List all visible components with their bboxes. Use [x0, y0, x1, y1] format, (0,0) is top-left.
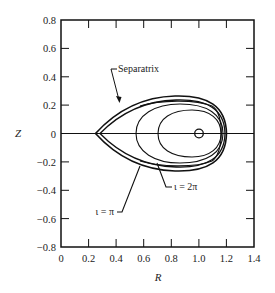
plot-canvas: 0.8 0.6 0.4 0.2 0 −0.2 −0.4 −0.6 −0.8 0 … — [0, 0, 275, 293]
separatrix-arrowhead — [116, 96, 122, 103]
y-tick-label: 0.6 — [43, 43, 56, 54]
y-tick-label: −0.8 — [37, 242, 56, 253]
x-ticks-top — [89, 20, 227, 28]
y-axis-title: Z — [15, 127, 22, 139]
x-tick-label: 0.6 — [137, 253, 150, 264]
x-tick-label: 0.4 — [110, 253, 124, 264]
y-tick-label: −0.2 — [37, 157, 56, 168]
x-tick-label: 1.4 — [247, 253, 261, 264]
y-tick-label: 0.8 — [43, 15, 56, 26]
x-tick-label: 1.2 — [220, 253, 233, 264]
x-tick-label: 0 — [58, 253, 63, 264]
separatrix-label: Separatrix — [118, 63, 159, 74]
iota-pi-leader — [117, 166, 140, 212]
y-tick-label: −0.6 — [37, 214, 56, 225]
x-ticks-bottom — [89, 239, 227, 247]
y-tick-labels: 0.8 0.6 0.4 0.2 0 −0.2 −0.4 −0.6 −0.8 — [37, 15, 57, 253]
x-tick-label: 0.2 — [82, 253, 95, 264]
x-axis-title: R — [154, 271, 162, 283]
iota-2pi-label: ι = 2π — [174, 181, 197, 192]
iota-pi-label: ι = π — [96, 206, 114, 217]
x-tick-label: 1.0 — [192, 253, 205, 264]
y-tick-label: 0.4 — [43, 72, 57, 83]
y-tick-label: 0.2 — [43, 100, 56, 111]
x-tick-labels: 0 0.2 0.4 0.6 0.8 1.0 1.2 1.4 — [58, 253, 261, 264]
y-tick-label: 0 — [51, 129, 56, 140]
x-tick-label: 0.8 — [165, 253, 178, 264]
y-tick-label: −0.4 — [37, 185, 57, 196]
